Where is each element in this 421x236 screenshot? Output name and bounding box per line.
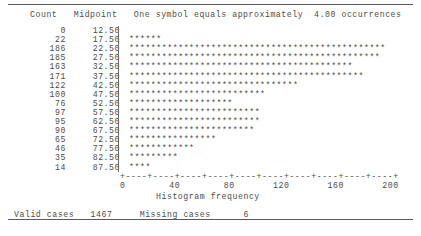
row-midpoint-value: 42.50 xyxy=(66,81,120,90)
table-row: 4677.50************ xyxy=(0,144,421,153)
footer-gap-1 xyxy=(74,210,90,219)
row-midpoint-value: 52.50 xyxy=(66,99,120,108)
row-count-value: 100 xyxy=(0,90,66,99)
row-midpoint-value: 37.50 xyxy=(66,72,120,81)
row-count-value: 0 xyxy=(0,26,66,35)
row-symbol-bar: ****************************************… xyxy=(120,72,364,81)
row-midpoint-value: 67.50 xyxy=(66,126,120,135)
rows-container: 012.502217.50******18622.50*************… xyxy=(0,26,421,172)
row-midpoint-value: 22.50 xyxy=(66,44,120,53)
row-count-value: 185 xyxy=(0,53,66,62)
row-midpoint-value: 32.50 xyxy=(66,62,120,71)
table-row: 16332.50********************************… xyxy=(0,62,421,71)
row-midpoint-value: 87.50 xyxy=(66,163,120,172)
count-column-header: Count xyxy=(30,10,57,19)
vertical-axis-line xyxy=(118,26,119,172)
row-count-value: 22 xyxy=(0,35,66,44)
header-gap-1 xyxy=(57,10,73,19)
valid-cases-value: 1467 xyxy=(91,210,113,219)
row-midpoint-value: 82.50 xyxy=(66,153,120,162)
footer-gap-2 xyxy=(112,210,139,219)
row-symbol-bar: *********************** xyxy=(120,126,255,135)
row-count-value: 90 xyxy=(0,126,66,135)
footer-gap-3 xyxy=(211,210,244,219)
row-count-value: 186 xyxy=(0,44,66,53)
top-divider-rule xyxy=(8,4,413,5)
table-row: 17137.50********************************… xyxy=(0,72,421,81)
row-count-value: 35 xyxy=(0,153,66,162)
axis-title: Histogram frequency xyxy=(120,191,421,202)
table-row: 3582.50********* xyxy=(0,153,421,162)
row-symbol-bar: ************************* xyxy=(120,90,266,99)
missing-cases-value: 6 xyxy=(244,210,249,219)
table-row: 18622.50********************************… xyxy=(0,44,421,53)
table-row: 012.50 xyxy=(0,26,421,35)
row-count-value: 76 xyxy=(0,99,66,108)
table-row: 1487.50**** xyxy=(0,163,421,172)
row-midpoint-value: 62.50 xyxy=(66,117,120,126)
axis-block: +----+----+----+----+----+----+----+----… xyxy=(0,172,421,202)
histogram-rows: 012.502217.50******18622.50*************… xyxy=(0,26,421,172)
table-row: 9757.50************************ xyxy=(0,108,421,117)
axis-tick-marks: +----+----+----+----+----+----+----+----… xyxy=(120,172,421,181)
row-midpoint-value: 47.50 xyxy=(66,90,120,99)
row-count-value: 95 xyxy=(0,117,66,126)
row-symbol-bar: **** xyxy=(120,163,151,172)
table-row: 12242.50******************************* xyxy=(0,81,421,90)
row-count-value: 14 xyxy=(0,163,66,172)
row-midpoint-value: 27.50 xyxy=(66,53,120,62)
row-symbol-bar: ******************************* xyxy=(120,81,298,90)
row-count-value: 46 xyxy=(0,144,66,153)
table-row: 6572.50**************** xyxy=(0,135,421,144)
row-count-value: 171 xyxy=(0,72,66,81)
row-symbol-bar: ************ xyxy=(120,144,195,153)
row-midpoint-value: 72.50 xyxy=(66,135,120,144)
table-row: 18527.50********************************… xyxy=(0,53,421,62)
row-count-value: 163 xyxy=(0,62,66,71)
row-count-value: 65 xyxy=(0,135,66,144)
row-midpoint-value: 17.50 xyxy=(66,35,120,44)
row-symbol-bar: ****************************************… xyxy=(120,53,380,62)
row-symbol-bar: ****************************************… xyxy=(120,44,386,53)
report-content: Count Midpoint One symbol equals approxi… xyxy=(0,10,421,219)
row-symbol-bar: ******************* xyxy=(120,99,233,108)
table-row: 9562.50************************ xyxy=(0,117,421,126)
table-row: 2217.50****** xyxy=(0,35,421,44)
row-symbol-bar: ****** xyxy=(120,35,162,44)
missing-cases-label: Missing cases xyxy=(140,210,211,219)
row-midpoint-value: 77.50 xyxy=(66,144,120,153)
column-header-row: Count Midpoint One symbol equals approxi… xyxy=(0,10,421,19)
bottom-divider-rule xyxy=(8,219,413,220)
table-row: 10047.50************************* xyxy=(0,90,421,99)
row-symbol-bar: ************************ xyxy=(120,117,260,126)
histogram-output-page: Count Midpoint One symbol equals approxi… xyxy=(0,0,421,236)
table-row: 9067.50*********************** xyxy=(0,126,421,135)
row-symbol-bar: ****************************************… xyxy=(120,62,353,71)
header-gap-2 xyxy=(117,10,133,19)
row-symbol-bar: ********* xyxy=(120,153,178,162)
row-midpoint-value: 57.50 xyxy=(66,108,120,117)
summary-footer-row: Valid cases 1467 Missing cases 6 xyxy=(0,210,421,219)
row-symbol-bar: **************** xyxy=(120,135,216,144)
table-row: 7652.50******************* xyxy=(0,99,421,108)
valid-cases-label: Valid cases xyxy=(14,210,74,219)
axis-tick-labels: 0 40 80 120 160 200 xyxy=(120,181,421,191)
midpoint-column-header: Midpoint xyxy=(74,10,118,19)
row-count-value: 97 xyxy=(0,108,66,117)
row-midpoint-value: 12.50 xyxy=(66,26,120,35)
row-symbol-bar: ************************ xyxy=(120,108,260,117)
row-count-value: 122 xyxy=(0,81,66,90)
symbol-scale-note: One symbol equals approximately 4.00 occ… xyxy=(134,10,402,19)
